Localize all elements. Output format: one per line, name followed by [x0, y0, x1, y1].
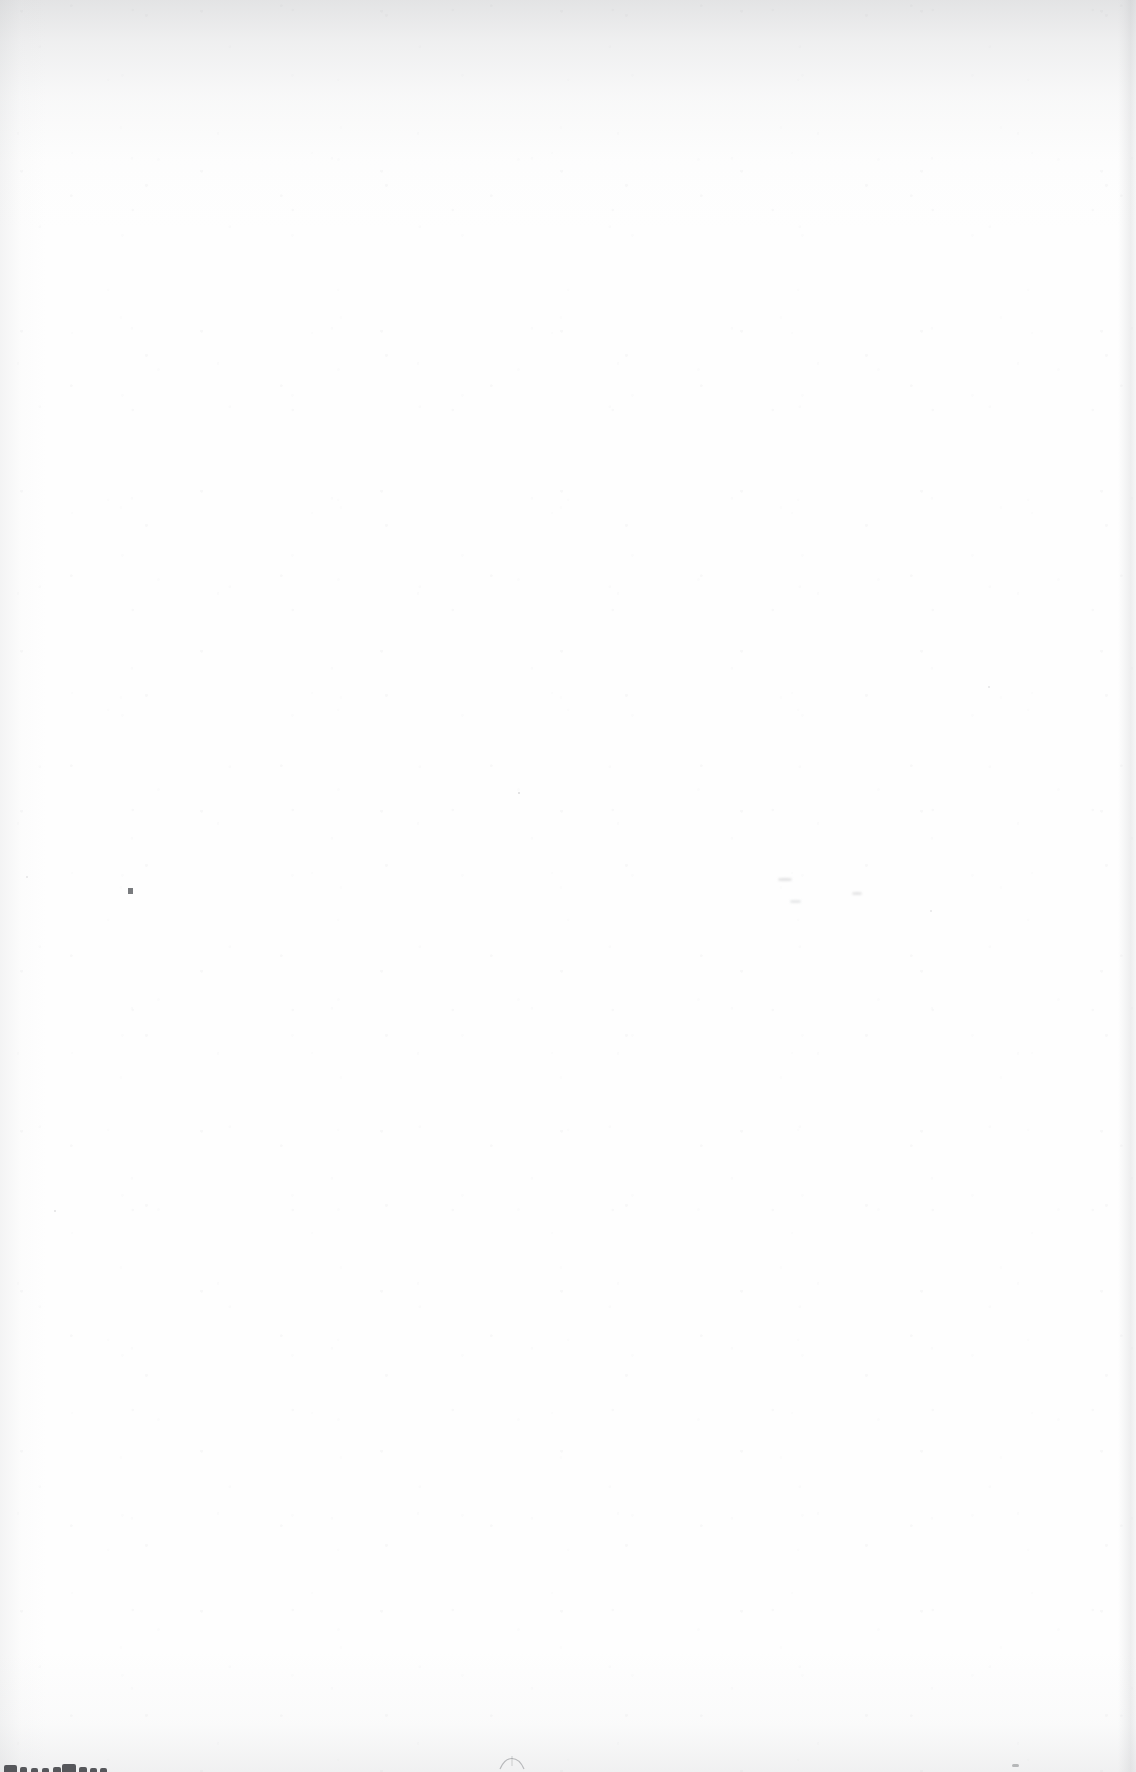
scanned-page	[0, 0, 1136, 1772]
page-text-content	[110, 150, 1010, 1600]
